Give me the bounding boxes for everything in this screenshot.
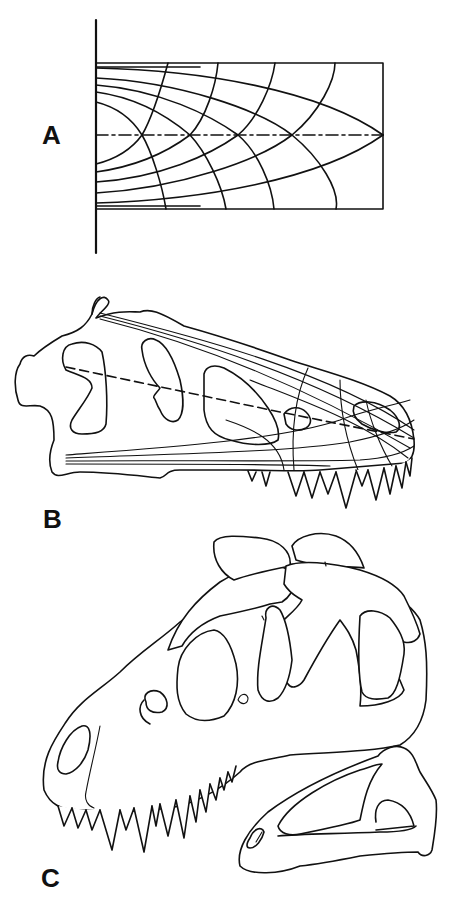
stippled-skull-drawing: [43, 534, 426, 852]
lower-jaw-outline: [239, 746, 436, 872]
figure: A: [0, 0, 456, 913]
maxillary-fenestra: [145, 691, 167, 713]
panel-label-c: C: [41, 865, 60, 891]
teeth-row: [58, 766, 236, 852]
external-naris: [57, 726, 90, 774]
mandibular-fenestra: [278, 764, 382, 835]
antorbital-fenestra: [177, 630, 238, 720]
panel-c-diagram: [0, 0, 456, 913]
